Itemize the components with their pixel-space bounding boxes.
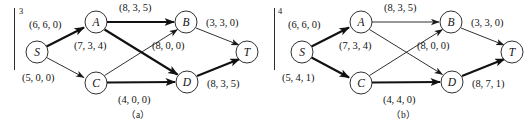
node-B-label: B: [182, 16, 189, 28]
node-A-label: A: [356, 16, 365, 28]
panel-b-caption: （b）: [391, 107, 416, 121]
panel-a-caption: （a）: [126, 107, 150, 121]
node-C-label: C: [92, 77, 100, 89]
edge-label-B-T: (3, 3, 0): [471, 17, 503, 28]
edge-B-T: [461, 28, 504, 45]
edge-label-A-B: (8, 3, 5): [384, 2, 416, 13]
edge-D-T: [197, 59, 240, 76]
edge-label-S-C: (5, 4, 1): [282, 72, 314, 83]
diagram-panel-b: 4: [265, 0, 530, 124]
edge-label-A-B: (8, 3, 5): [119, 2, 151, 13]
edge-label-C-B: (8, 0, 0): [152, 40, 184, 51]
node-C-label: C: [357, 77, 365, 89]
edge-label-C-D: (4, 0, 0): [118, 94, 150, 105]
edge-label-D-T: (8, 7, 1): [472, 78, 504, 89]
edge-C-D: [372, 82, 440, 83]
node-D-label: D: [182, 76, 192, 88]
edge-label-C-B: (8, 0, 0): [417, 40, 449, 51]
edge-label-B-T: (3, 3, 0): [206, 17, 238, 28]
edge-C-D: [107, 82, 175, 83]
edge-label-C-D: (4, 4, 0): [383, 94, 415, 105]
edge-label-S-A: (6, 6, 0): [29, 19, 61, 30]
node-B-label: B: [447, 16, 454, 28]
node-S-label: S: [34, 46, 40, 58]
edge-label-S-C: (5, 0, 0): [22, 72, 54, 83]
node-S-label: S: [299, 46, 305, 58]
edge-label-S-A: (6, 6, 0): [288, 19, 320, 30]
node-A-label: A: [91, 16, 100, 28]
panel-a-edges: [47, 22, 240, 83]
diagram-panel-a: 3: [0, 0, 265, 124]
edge-label-A-D: (7, 3, 4): [339, 40, 371, 51]
edge-B-T: [196, 28, 239, 45]
panel-b-edges: [312, 22, 505, 83]
node-D-label: D: [447, 76, 457, 88]
edge-S-C: [312, 58, 350, 78]
edge-label-A-D: (7, 3, 4): [74, 40, 106, 51]
edge-D-T: [462, 59, 505, 76]
edge-label-D-T: (8, 3, 5): [207, 78, 239, 89]
figure-network-flow-pair: 3: [0, 0, 530, 124]
